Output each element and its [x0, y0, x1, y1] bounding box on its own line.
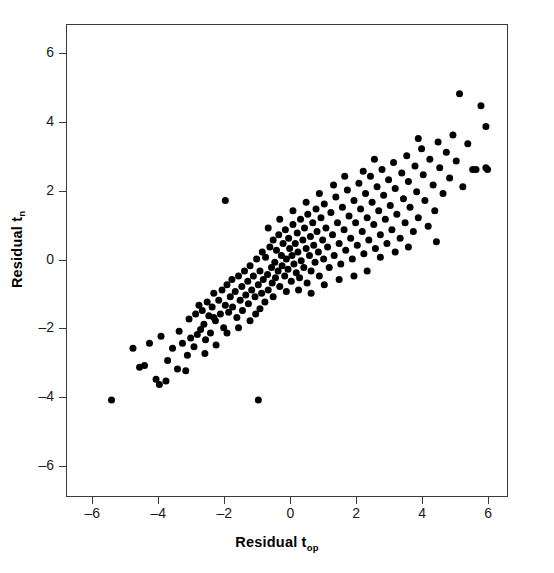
data-point: [222, 302, 229, 309]
data-point: [322, 224, 329, 231]
data-point: [319, 237, 326, 244]
data-point: [360, 250, 367, 257]
data-point: [415, 214, 422, 221]
data-point: [279, 262, 286, 269]
data-point: [390, 159, 397, 166]
data-point: [330, 181, 337, 188]
data-point: [314, 228, 321, 235]
y-tick-label: –6: [22, 457, 54, 473]
data-point: [241, 267, 248, 274]
data-point: [222, 197, 229, 204]
data-point: [252, 293, 259, 300]
x-tick: [158, 497, 159, 504]
data-point: [129, 345, 136, 352]
data-point: [364, 214, 371, 221]
data-point: [354, 242, 361, 249]
data-point: [482, 164, 489, 171]
x-axis-title-subscript: op: [307, 542, 319, 553]
data-point: [306, 252, 313, 259]
data-point: [336, 276, 343, 283]
data-point: [388, 226, 395, 233]
data-point: [265, 286, 272, 293]
data-point: [289, 207, 296, 214]
data-point: [209, 304, 216, 311]
data-point: [223, 281, 230, 288]
data-point: [456, 90, 463, 97]
data-point: [190, 343, 197, 350]
data-point: [299, 237, 306, 244]
data-point: [227, 293, 234, 300]
data-point: [265, 224, 272, 231]
data-point: [301, 224, 308, 231]
data-point: [184, 352, 191, 359]
data-point: [435, 138, 442, 145]
data-point: [316, 273, 323, 280]
data-point: [303, 199, 310, 206]
data-point: [294, 230, 301, 237]
y-tick-label: 4: [22, 113, 54, 129]
data-point: [271, 259, 278, 266]
data-point: [350, 273, 357, 280]
data-point: [321, 281, 328, 288]
data-point: [294, 249, 301, 256]
data-point: [186, 316, 193, 323]
data-point: [316, 190, 323, 197]
data-point: [285, 235, 292, 242]
plot-area: [66, 24, 508, 497]
data-point: [288, 252, 295, 259]
data-point: [440, 190, 447, 197]
y-axis-title: Residual tn: [9, 139, 28, 359]
data-point: [250, 273, 257, 280]
data-point: [256, 267, 263, 274]
data-point: [385, 176, 392, 183]
data-point: [237, 297, 244, 304]
data-point: [397, 235, 404, 242]
data-point: [223, 329, 230, 336]
data-point: [108, 396, 115, 403]
data-point: [182, 367, 189, 374]
data-point: [477, 102, 484, 109]
data-point: [321, 200, 328, 207]
data-point: [459, 183, 466, 190]
data-point: [372, 245, 379, 252]
data-point: [382, 216, 389, 223]
data-point: [418, 145, 425, 152]
data-point: [304, 211, 311, 218]
data-point: [482, 123, 489, 130]
data-point: [430, 181, 437, 188]
data-point: [179, 340, 186, 347]
scatter-plot-figure: –6–4–20246 6420–2–4–6 Residual top Resid…: [0, 0, 554, 573]
data-point: [464, 140, 471, 147]
data-point: [270, 237, 277, 244]
y-tick: [59, 397, 66, 398]
x-tick: [224, 497, 225, 504]
data-point: [201, 350, 208, 357]
data-point: [339, 204, 346, 211]
data-point: [320, 255, 327, 262]
data-point: [377, 254, 384, 261]
data-point: [313, 206, 320, 213]
data-point: [360, 168, 367, 175]
data-point: [420, 171, 427, 178]
x-tick-label: –6: [72, 505, 112, 521]
data-point: [258, 290, 265, 297]
data-point: [280, 240, 287, 247]
data-point: [380, 192, 387, 199]
data-point: [255, 281, 262, 288]
data-point: [367, 173, 374, 180]
data-point: [352, 219, 359, 226]
data-points-layer: [67, 25, 509, 498]
data-point: [162, 378, 169, 385]
data-point: [213, 341, 220, 348]
y-tick: [59, 53, 66, 54]
data-point: [336, 240, 343, 247]
data-point: [309, 219, 316, 226]
data-point: [248, 286, 255, 293]
data-point: [393, 211, 400, 218]
y-tick: [59, 260, 66, 261]
data-point: [365, 237, 372, 244]
data-point: [210, 290, 217, 297]
data-point: [355, 180, 362, 187]
data-point: [255, 396, 262, 403]
data-point: [405, 178, 412, 185]
